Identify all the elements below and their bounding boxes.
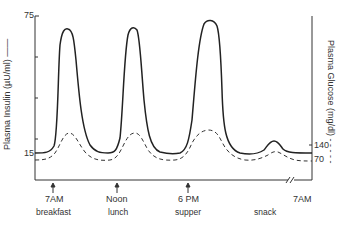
insulin-glucose-chart (0, 0, 339, 227)
x-label-6pm: 6 PM (178, 195, 199, 204)
y-tick-15: 15 (24, 149, 34, 158)
right-y-axis-label: Plasma Glucose (mg/dl) - - - - - (326, 40, 336, 164)
glucose-curve (35, 130, 312, 161)
y-right-tick-70: 70 (314, 155, 324, 164)
x-label-noon: Noon (106, 195, 128, 204)
x-label-snack: snack (254, 208, 276, 217)
x-label-lunch: lunch (108, 208, 128, 217)
x-label-7am-next: 7AM (293, 195, 312, 204)
x-label-supper: supper (175, 208, 201, 217)
insulin-curve (35, 20, 312, 154)
x-label-breakfast: breakfast (36, 208, 71, 217)
x-label-7am: 7AM (45, 195, 64, 204)
left-y-axis-label: Plasma Insulin (µU/ml) —— (2, 39, 12, 150)
y-tick-75: 75 (24, 11, 34, 20)
meal-arrows (51, 183, 190, 193)
